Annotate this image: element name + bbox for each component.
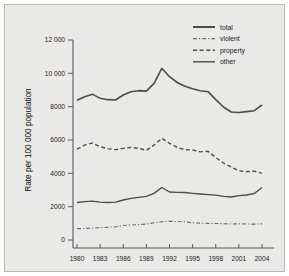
series-line-property [77,138,262,173]
y-tick-label: 12 000 [45,36,66,43]
x-tick-label: 1995 [185,255,200,262]
legend-label-other: other [220,58,236,65]
x-tick-label: 1983 [93,255,108,262]
x-tick-label: 2001 [232,255,247,262]
y-tick-label: 8000 [50,103,65,110]
x-tick-label: 1989 [139,255,154,262]
legend-label-violent: violent [220,35,240,42]
y-tick-label: 6000 [50,136,65,143]
series-line-other [77,188,262,203]
line-chart: 0200040006000800010 00012 00019801983198… [5,5,286,273]
y-axis-title: Rate per 100 000 population [24,88,33,192]
y-tick-label: 4000 [50,170,65,177]
y-tick-label: 2000 [50,203,65,210]
x-tick-label: 1980 [70,255,85,262]
legend-label-total: total [220,24,233,31]
y-tick-label: 10 000 [45,70,66,77]
series-line-total [77,68,262,112]
legend-label-property: property [220,47,246,55]
x-tick-label: 1998 [208,255,223,262]
figure-panel: 0200040006000800010 00012 00019801983198… [4,4,285,272]
x-tick-label: 2004 [255,255,270,262]
x-tick-label: 1992 [162,255,177,262]
series-line-violent [77,221,262,228]
y-tick-label: 0 [61,236,65,243]
x-tick-label: 1986 [116,255,131,262]
chart-canvas: 0200040006000800010 00012 00019801983198… [5,5,286,273]
